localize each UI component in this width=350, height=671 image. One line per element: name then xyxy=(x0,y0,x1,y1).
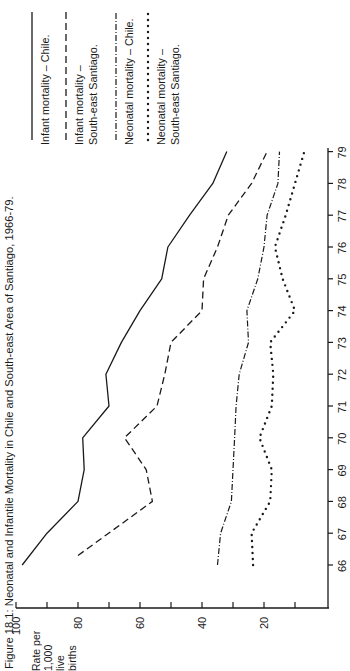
year-tick-label: 69 xyxy=(336,464,348,476)
year-tick-label: 73 xyxy=(336,337,348,349)
value-tick-label: 20 xyxy=(258,617,270,629)
year-tick-label: 78 xyxy=(336,178,348,190)
value-tick-label: 60 xyxy=(134,617,146,629)
year-axis: 6667686970717273747576777879 xyxy=(328,146,348,608)
legend-item-infant_chile: Infant mortality – Chile. xyxy=(32,12,51,145)
year-tick-label: 76 xyxy=(336,242,348,254)
year-tick-label: 67 xyxy=(336,528,348,540)
legend-item-neonatal_se: Neonatal mortality –South-east Santiago. xyxy=(148,12,181,145)
year-tick-label: 72 xyxy=(336,369,348,381)
value-tick-label: 80 xyxy=(72,617,84,629)
legend-label: Infant mortality – Chile. xyxy=(39,35,51,145)
svg-text:Rate per: Rate per xyxy=(30,630,42,671)
series-dash-dot-line xyxy=(218,152,280,565)
legend-item-infant_se: Infant mortality –South-east Santiago. xyxy=(66,12,99,145)
series-dotted-line xyxy=(252,152,305,565)
year-tick-label: 79 xyxy=(336,146,348,158)
legend-label: Neonatal mortality – xyxy=(155,49,167,145)
figure-title: Figure 18.1: Neonatal and Infantile Mort… xyxy=(3,196,15,669)
mortality-line-chart: Figure 18.1: Neonatal and Infantile Mort… xyxy=(0,0,350,671)
legend-label-line2: South-east Santiago. xyxy=(169,44,181,145)
svg-text:1,000: 1,000 xyxy=(42,645,54,671)
year-tick-label: 77 xyxy=(336,210,348,222)
svg-text:births: births xyxy=(66,645,78,671)
year-tick-label: 75 xyxy=(336,274,348,286)
legend-label: Neonatal mortality – Chile. xyxy=(123,18,135,145)
year-tick-label: 68 xyxy=(336,496,348,508)
legend-item-neonatal_chile: Neonatal mortality – Chile. xyxy=(116,12,135,145)
value-axis: 10080604020 Rate per 1,000 live births xyxy=(10,602,329,671)
legend: Infant mortality – Chile.Infant mortalit… xyxy=(32,12,181,145)
data-series xyxy=(22,152,304,565)
legend-label-line2: South-east Santiago. xyxy=(87,44,99,145)
y-axis-label: Rate per 1,000 live births xyxy=(30,630,78,671)
legend-label: Infant mortality – xyxy=(73,65,85,145)
year-tick-label: 70 xyxy=(336,433,348,445)
svg-text:live: live xyxy=(54,655,66,671)
value-tick-label: 100 xyxy=(10,617,22,635)
series-solid-line xyxy=(22,152,227,565)
year-tick-label: 66 xyxy=(336,560,348,572)
year-tick-label: 71 xyxy=(336,401,348,413)
series-dashed-line xyxy=(78,152,267,556)
value-tick-label: 40 xyxy=(196,617,208,629)
year-tick-label: 74 xyxy=(336,305,348,317)
